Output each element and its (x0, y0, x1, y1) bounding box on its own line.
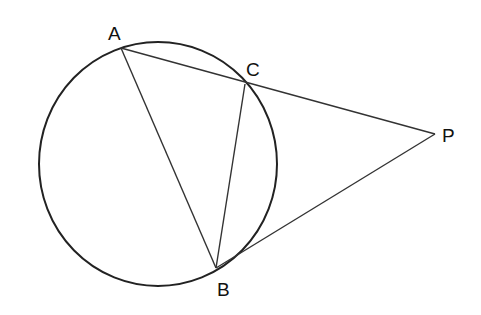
point-label-c: C (246, 60, 260, 79)
point-label-b: B (217, 280, 230, 299)
segment-b-p (216, 134, 435, 268)
point-label-a: A (108, 24, 121, 43)
geometry-diagram (0, 0, 481, 315)
point-label-p: P (442, 126, 455, 145)
segment-c-b (216, 84, 245, 268)
segment-a-b (121, 48, 216, 268)
segment-a-p (121, 48, 435, 134)
circle (39, 42, 277, 286)
